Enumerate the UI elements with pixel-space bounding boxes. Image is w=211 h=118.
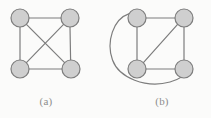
figure-container: (a) (b) [0, 0, 211, 118]
a-node-top-right[interactable] [61, 9, 79, 27]
a-edge-right [70, 27, 71, 60]
panel-b-caption: (b) [114, 95, 210, 107]
b-node-bottom-right[interactable] [175, 60, 193, 78]
panel-a-edges [20, 18, 71, 69]
b-node-bottom-left[interactable] [128, 60, 146, 78]
panel-b-graph [110, 9, 193, 84]
b-node-top-right[interactable] [175, 9, 193, 27]
a-node-bottom-left[interactable] [11, 60, 29, 78]
b-edge-diagonal-ne-sw [143, 24, 177, 62]
a-node-top-left[interactable] [11, 9, 29, 27]
b-node-top-left[interactable] [128, 9, 146, 27]
panel-a-graph [11, 9, 80, 78]
panel-a-caption: (a) [0, 95, 92, 107]
a-node-bottom-right[interactable] [62, 60, 80, 78]
